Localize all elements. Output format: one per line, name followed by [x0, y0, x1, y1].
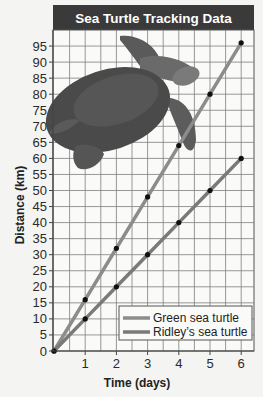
- data-point: [239, 40, 244, 45]
- y-tick-label: 70: [33, 119, 47, 134]
- data-point: [145, 252, 150, 257]
- chart-title: Sea Turtle Tracking Data: [75, 11, 232, 26]
- title-bar: Sea Turtle Tracking Data: [53, 5, 254, 30]
- data-point: [207, 188, 212, 193]
- y-tick-label: 80: [33, 87, 47, 102]
- data-point: [114, 246, 119, 251]
- data-point: [176, 220, 181, 225]
- y-tick-label: 40: [33, 215, 47, 230]
- y-tick-label: 65: [33, 135, 47, 150]
- y-tick-label: 90: [33, 55, 47, 70]
- x-tick-label: 6: [238, 356, 245, 371]
- data-point: [176, 143, 181, 148]
- data-point: [114, 284, 119, 289]
- legend-label-green: Green sea turtle: [153, 311, 239, 325]
- y-tick-label: 5: [40, 327, 47, 342]
- x-tick-label: 4: [175, 356, 182, 371]
- y-tick-label: 55: [33, 167, 47, 182]
- data-point: [83, 316, 88, 321]
- y-tick-label: 20: [33, 279, 47, 294]
- y-tick-label: 85: [33, 71, 47, 86]
- y-tick-label: 15: [33, 295, 47, 310]
- data-point: [239, 156, 244, 161]
- y-axis: 05101520253035404550556065707580859095: [33, 30, 53, 359]
- y-tick-label: 60: [33, 151, 47, 166]
- y-tick-label: 35: [33, 231, 47, 246]
- x-axis: 123456: [53, 351, 254, 371]
- chart: Sea Turtle Tracking Data 051015202530354…: [0, 0, 263, 397]
- x-axis-title: Time (days): [104, 376, 170, 390]
- y-tick-label: 25: [33, 263, 47, 278]
- x-tick-label: 2: [113, 356, 120, 371]
- x-tick-label: 5: [206, 356, 213, 371]
- y-tick-label: 0: [40, 344, 47, 359]
- y-tick-label: 45: [33, 199, 47, 214]
- data-point: [145, 194, 150, 199]
- legend-label-ridley: Ridley’s sea turtle: [153, 325, 248, 339]
- legend: Green sea turtle Ridley’s sea turtle: [119, 306, 252, 340]
- y-tick-label: 95: [33, 39, 47, 54]
- y-tick-label: 75: [33, 103, 47, 118]
- y-tick-label: 50: [33, 183, 47, 198]
- x-tick-label: 1: [82, 356, 89, 371]
- x-tick-label: 3: [144, 356, 151, 371]
- y-tick-label: 10: [33, 311, 47, 326]
- data-point: [207, 92, 212, 97]
- y-tick-label: 30: [33, 247, 47, 262]
- y-axis-title: Distance (km): [13, 166, 27, 245]
- data-point: [83, 297, 88, 302]
